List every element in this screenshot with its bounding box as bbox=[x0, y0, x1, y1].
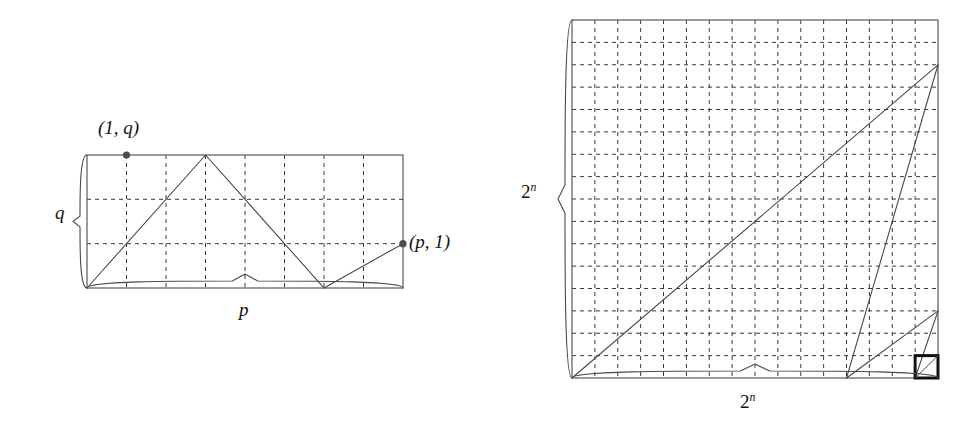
figure-canvas bbox=[0, 0, 977, 436]
figure-root: (1, q) (p, 1) q p 2n 2n bbox=[0, 0, 977, 436]
left-marker-dot bbox=[399, 240, 406, 247]
label-point-1-q: (1, q) bbox=[98, 118, 139, 137]
label-point-p-1: (p, 1) bbox=[409, 232, 450, 251]
right-gridlines bbox=[572, 20, 938, 378]
label-2n-vertical-exponent: n bbox=[531, 181, 537, 194]
right-brace-left bbox=[558, 20, 572, 378]
right-panel bbox=[558, 20, 938, 378]
label-2n-horizontal-exponent: n bbox=[750, 391, 756, 404]
left-marker-dot bbox=[123, 151, 130, 158]
label-2n-horizontal-base: 2 bbox=[740, 391, 750, 412]
left-brace-left bbox=[73, 155, 87, 288]
label-brace-q: q bbox=[55, 203, 65, 222]
left-gridlines bbox=[87, 155, 403, 288]
label-brace-p: p bbox=[239, 300, 249, 319]
label-2n-vertical-base: 2 bbox=[521, 181, 531, 202]
label-brace-2n-vertical: 2n bbox=[521, 182, 536, 201]
label-brace-2n-horizontal: 2n bbox=[740, 392, 755, 411]
left-panel bbox=[73, 151, 407, 288]
